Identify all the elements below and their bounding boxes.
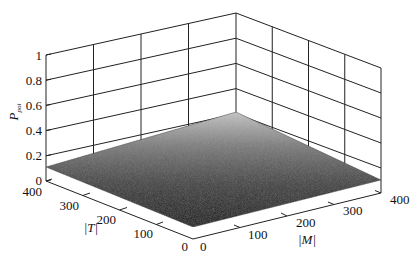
z-axis-label: Ppot xyxy=(6,103,23,122)
z-tick: 0.6 xyxy=(26,98,43,113)
z-tick: 0.4 xyxy=(26,123,43,138)
t-axis-label: |T| xyxy=(84,220,98,235)
t-tick: 100 xyxy=(134,226,154,241)
m-tick: 300 xyxy=(343,203,363,218)
t-tick: 400 xyxy=(23,184,43,199)
m-tick: 400 xyxy=(390,192,410,207)
t-tick: 300 xyxy=(60,198,80,213)
m-tick: 200 xyxy=(296,215,316,230)
z-tick: 0.8 xyxy=(26,73,42,88)
z-tick: 0.2 xyxy=(26,148,42,163)
m-tick: 0 xyxy=(200,239,207,254)
m-axis-label: |M| xyxy=(298,232,316,247)
m-tick: 100 xyxy=(248,227,268,242)
z-tick: 1 xyxy=(36,48,43,63)
surface xyxy=(46,112,381,227)
z-axis-ticks: 1 0.8 0.6 0.4 0.2 0 xyxy=(26,48,43,188)
z-label-sub: pot xyxy=(15,103,23,114)
svg-text:Ppot: Ppot xyxy=(6,103,23,122)
t-tick: 0 xyxy=(182,239,189,254)
t-tick: 200 xyxy=(97,212,117,227)
z-label-main: P xyxy=(6,112,21,121)
surface-plot: 1 0.8 0.6 0.4 0.2 0 Ppot 400 300 200 100… xyxy=(0,0,417,260)
